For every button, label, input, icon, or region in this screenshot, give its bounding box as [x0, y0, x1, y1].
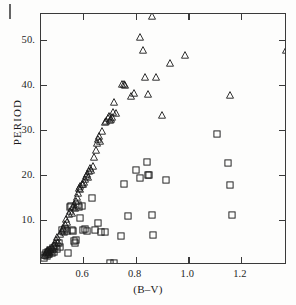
data-point-triangle: [75, 184, 83, 192]
data-point-triangle: [53, 233, 61, 241]
data-point-triangle: [59, 224, 67, 232]
data-point-triangle: [139, 46, 147, 54]
data-point-square: [68, 226, 76, 234]
data-point-square: [162, 176, 170, 184]
y-axis-title: PERIOD: [11, 92, 23, 152]
data-point-triangle: [95, 132, 103, 140]
data-point-square: [88, 194, 96, 202]
data-point-square: [78, 202, 86, 210]
data-point-triangle: [79, 180, 87, 188]
data-point-triangle: [69, 203, 77, 211]
data-point-square: [61, 226, 69, 234]
data-point-triangle: [105, 112, 113, 120]
data-point-square: [43, 250, 51, 258]
data-point-triangle: [148, 14, 156, 20]
data-point-triangle: [47, 247, 55, 255]
data-point-triangle: [282, 46, 285, 54]
data-point-square: [227, 181, 235, 189]
data-point-square: [81, 226, 89, 234]
data-point-triangle: [63, 218, 71, 226]
data-point-square: [54, 245, 62, 253]
data-point-square: [213, 130, 221, 138]
data-point-triangle: [46, 245, 54, 253]
data-point-triangle: [120, 80, 128, 88]
data-point-triangle: [104, 114, 112, 122]
data-point-square: [149, 231, 157, 239]
data-point-square: [46, 250, 54, 258]
data-point-square: [47, 246, 55, 254]
data-point-triangle: [50, 241, 58, 249]
data-point-triangle: [52, 236, 60, 244]
x-axis-title: (B–V): [0, 283, 296, 295]
data-point-triangle: [80, 178, 88, 186]
x-tick-label: 1.0: [181, 268, 194, 279]
plot-frame: [40, 13, 286, 264]
data-point-triangle: [141, 73, 149, 81]
data-point-square: [144, 159, 152, 167]
data-point-triangle: [49, 245, 57, 253]
data-point-square: [125, 212, 133, 220]
data-point-square: [58, 226, 66, 234]
data-point-triangle: [92, 146, 100, 154]
y-tick-label: 30.: [2, 124, 35, 135]
data-point-square: [97, 228, 105, 236]
data-point-triangle: [51, 239, 59, 247]
y-tick-label: 40.: [2, 79, 35, 90]
data-point-triangle: [68, 209, 76, 217]
data-point-triangle: [87, 166, 95, 174]
data-point-triangle: [65, 210, 73, 218]
data-point-triangle: [166, 59, 174, 67]
data-point-triangle: [73, 193, 81, 201]
data-point-square: [91, 226, 99, 234]
data-point-square: [44, 252, 52, 260]
data-point-triangle: [136, 33, 144, 41]
data-point-triangle: [226, 91, 234, 99]
data-point-square: [73, 236, 81, 244]
data-point-triangle: [181, 51, 189, 59]
data-point-triangle: [58, 227, 66, 235]
y-tick-label: 20.: [2, 169, 35, 180]
data-point-triangle: [70, 200, 78, 208]
data-point-square: [65, 250, 73, 258]
data-point-square: [70, 237, 78, 245]
data-point-square: [52, 242, 60, 250]
data-point-triangle: [56, 230, 64, 238]
x-tick-label: 0.6: [75, 268, 88, 279]
data-point-triangle: [76, 185, 84, 193]
data-point-square: [146, 171, 154, 179]
data-point-triangle: [86, 164, 94, 172]
data-point-triangle: [98, 127, 106, 135]
data-point-triangle: [85, 167, 93, 175]
y-tick-label: 10.: [2, 214, 35, 225]
data-point-square: [83, 227, 91, 235]
data-point-square: [132, 166, 140, 174]
data-point-triangle: [82, 172, 90, 180]
data-point-square: [148, 211, 156, 219]
data-point-triangle: [45, 248, 53, 256]
data-point-square: [120, 181, 128, 189]
data-point-triangle: [144, 90, 152, 98]
x-tick-label: 1.2: [233, 268, 246, 279]
data-point-triangle: [48, 243, 56, 251]
data-point-triangle: [107, 115, 115, 123]
data-point-triangle: [93, 139, 101, 147]
data-point-triangle: [90, 153, 98, 161]
data-point-triangle: [76, 182, 84, 190]
data-point-triangle: [84, 173, 92, 181]
data-point-square: [225, 159, 233, 167]
data-point-square: [228, 211, 236, 219]
data-point-triangle: [83, 170, 91, 178]
data-point-square: [94, 219, 102, 227]
data-point-triangle: [42, 248, 50, 256]
data-point-square: [117, 232, 125, 240]
data-point-triangle: [112, 109, 120, 117]
data-point-square: [55, 240, 63, 248]
data-point-triangle: [72, 197, 80, 205]
data-point-triangle: [66, 207, 74, 215]
data-points-layer: [41, 14, 285, 263]
data-point-triangle: [121, 81, 129, 89]
data-point-square: [106, 259, 114, 263]
data-point-square: [60, 228, 68, 236]
data-point-triangle: [106, 116, 114, 124]
data-point-square: [145, 172, 153, 180]
